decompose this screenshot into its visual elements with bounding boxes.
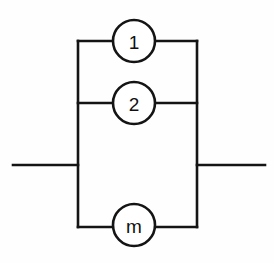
block-label-1: 1 [129, 32, 140, 53]
block-node-1[interactable]: 1 [113, 20, 155, 62]
block-node-m[interactable]: m [113, 204, 155, 246]
block-label-2: 2 [129, 94, 140, 115]
block-node-2[interactable]: 2 [113, 82, 155, 124]
diagram-canvas: 1 2 m [0, 0, 274, 263]
block-label-m: m [126, 216, 142, 237]
reliability-block-diagram: 1 2 m [0, 0, 274, 263]
